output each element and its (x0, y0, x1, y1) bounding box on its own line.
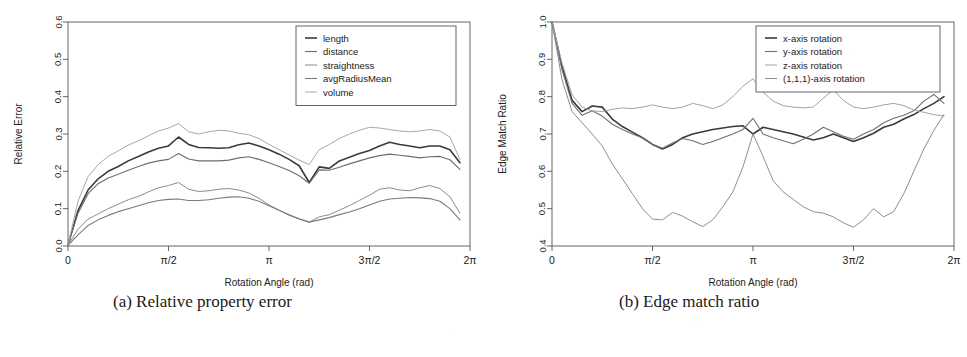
y-axis-tick-label: 0.5 (53, 53, 64, 66)
y-axis-tick-label: 0.1 (53, 202, 64, 215)
series-line (68, 153, 460, 244)
y-axis-tick-label: 0.3 (53, 127, 64, 140)
caption-panel-b: (b) Edge match ratio (619, 292, 759, 312)
x-axis-tick-label: 0 (65, 254, 71, 266)
y-axis-tick-label: 0.8 (537, 90, 548, 103)
chart-a-plot: 0.00.10.20.30.40.50.60π/2π3π/22πRotation… (0, 0, 483, 300)
y-axis-tick-label: 0.4 (53, 90, 64, 103)
y-axis-tick-label: 0.4 (537, 239, 548, 252)
panel-a-relative-property-error: 0.00.10.20.30.40.50.60π/2π3π/22πRotation… (0, 0, 483, 300)
x-axis-tick-label: 0 (549, 254, 555, 266)
x-axis-title: Rotation Angle (rad) (709, 277, 798, 288)
panel-b-edge-match-ratio: 0.40.50.60.70.80.91.00π/2π3π/22πRotation… (484, 0, 967, 300)
x-axis-tick-label: 2π (463, 254, 476, 266)
y-axis-tick-label: 0.0 (53, 239, 64, 252)
x-axis-tick-label: 3π/2 (843, 254, 865, 266)
y-axis-tick-label: 0.6 (53, 15, 64, 28)
x-axis-title: Rotation Angle (rad) (225, 277, 314, 288)
x-axis-tick-label: π/2 (160, 254, 176, 266)
legend-label: straightness (323, 60, 374, 71)
series-line (68, 183, 460, 246)
legend-label: volume (323, 87, 354, 98)
legend-box (296, 26, 456, 106)
legend-label: x-axis rotation (783, 33, 842, 44)
legend-label: length (323, 33, 349, 44)
caption-panel-a: (a) Relative property error (113, 292, 292, 312)
chart-b-plot: 0.40.50.60.70.80.91.00π/2π3π/22πRotation… (484, 0, 967, 300)
x-axis-tick-label: π (749, 254, 756, 266)
legend-label: z-axis rotation (783, 60, 842, 71)
series-line (68, 137, 460, 245)
series-line (68, 197, 460, 246)
x-axis-tick-label: 2π (947, 254, 960, 266)
legend-label: (1,1,1)-axis rotation (783, 73, 865, 84)
legend-label: distance (323, 46, 358, 57)
series-line (68, 124, 460, 245)
x-axis-tick-label: π (265, 254, 272, 266)
x-axis-tick-label: 3π/2 (359, 254, 381, 266)
y-axis-tick-label: 0.7 (537, 127, 548, 140)
legend-label: y-axis rotation (783, 46, 842, 57)
y-axis-title: Relative Error (13, 103, 24, 165)
caption-row: (a) Relative property error (b) Edge mat… (0, 292, 967, 332)
y-axis-tick-label: 0.6 (537, 165, 548, 178)
y-axis-tick-label: 0.9 (537, 53, 548, 66)
figure-container: 0.00.10.20.30.40.50.60π/2π3π/22πRotation… (0, 0, 967, 357)
y-axis-tick-label: 0.5 (537, 202, 548, 215)
x-axis-tick-label: π/2 (644, 254, 660, 266)
y-axis-tick-label: 1.0 (537, 15, 548, 28)
y-axis-title: Edge Match Ratio (497, 94, 508, 174)
y-axis-tick-label: 0.2 (53, 165, 64, 178)
legend-label: avgRadiusMean (323, 73, 392, 84)
